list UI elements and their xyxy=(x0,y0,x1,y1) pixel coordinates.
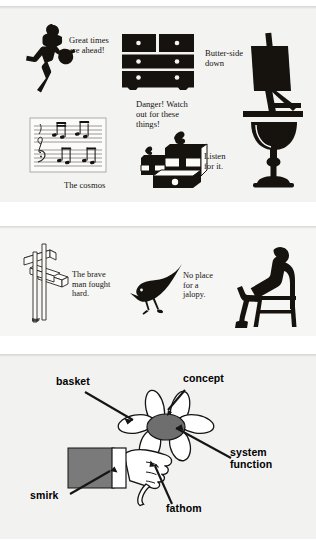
caption-dresser: Danger! Watchout for thesethings! xyxy=(136,100,188,129)
signpost-icon xyxy=(18,242,74,324)
caption-bowler-line1: Great times xyxy=(69,35,109,45)
dresser-icon xyxy=(122,34,194,90)
caption-goblet-line2: for it. xyxy=(204,161,223,171)
music-staff-icon xyxy=(30,118,106,172)
gift-boxes xyxy=(137,128,209,194)
label-concept: concept xyxy=(183,372,224,384)
caption-signpost-line1: The brave xyxy=(72,270,106,279)
caption-music: The cosmos xyxy=(64,181,105,191)
label-system-function: systemfunction xyxy=(230,446,272,470)
seated-person-silhouette xyxy=(228,244,298,330)
scan-edge-shadow-2 xyxy=(0,226,316,229)
clipart-panel-top: Great timesare ahead! Danger! Watchout f… xyxy=(0,6,316,202)
sheet-music xyxy=(30,118,106,172)
caption-bird-line1: No place xyxy=(183,271,213,280)
bird-icon xyxy=(128,260,184,316)
label-basket: basket xyxy=(56,375,90,387)
scanned-page: Great timesare ahead! Danger! Watchout f… xyxy=(0,0,316,545)
easel-icon xyxy=(243,33,303,117)
caption-bird-line3: jalopy. xyxy=(183,290,205,299)
caption-signpost-line2: man fought xyxy=(72,280,110,289)
label-fathom: fathom xyxy=(166,502,202,514)
label-system-function-line1: system xyxy=(230,446,267,458)
caption-goblet: Listenfor it. xyxy=(204,152,225,172)
signpost-outline xyxy=(18,242,74,324)
caption-easel-line1: Butter-side xyxy=(205,48,243,58)
dresser-silhouette xyxy=(122,34,194,90)
goblet-icon xyxy=(249,118,299,188)
label-smirk: smirk xyxy=(30,489,59,501)
caption-dresser-line2: out for these xyxy=(136,109,179,119)
caption-dresser-line1: Danger! Watch xyxy=(136,99,188,109)
caption-signpost-line3: hard. xyxy=(72,289,89,298)
caption-bowler-line2: are ahead! xyxy=(69,45,105,55)
label-system-function-line2: function xyxy=(230,458,272,470)
caption-easel-line2: down xyxy=(205,58,224,68)
caption-bowler: Great timesare ahead! xyxy=(69,36,109,56)
easel-silhouette xyxy=(243,33,303,117)
gift-boxes-icon xyxy=(137,128,209,194)
goblet-silhouette xyxy=(249,118,299,188)
bowler-silhouette xyxy=(20,22,82,96)
caption-goblet-line1: Listen xyxy=(204,151,225,161)
caption-easel: Butter-sidedown xyxy=(205,49,243,69)
caption-bird: No placefor ajalopy. xyxy=(183,271,213,300)
bowling-figure-icon xyxy=(20,22,82,96)
leader-basket xyxy=(85,392,133,420)
caption-signpost: The braveman foughthard. xyxy=(72,270,110,299)
labeled-diagram-panel: basket concept systemfunction smirk fath… xyxy=(0,354,316,539)
caption-bird-line2: for a xyxy=(183,281,199,290)
scan-edge-shadow xyxy=(0,6,316,9)
bird-silhouette xyxy=(128,260,184,316)
seated-person-icon xyxy=(228,244,298,330)
hand-outline xyxy=(124,450,172,506)
clipart-panel-middle: The braveman foughthard. No placefor aja… xyxy=(0,226,316,336)
